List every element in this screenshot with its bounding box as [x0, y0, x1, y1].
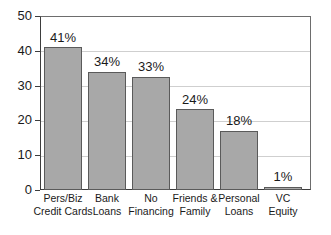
bar-value-label: 18% — [208, 113, 270, 128]
bar-group-vc-equity: 1% — [264, 16, 302, 190]
x-axis-labels: Pers/Biz Credit Cards Bank Loans No Fina… — [40, 192, 311, 235]
y-tick-40: 40 — [0, 51, 40, 52]
x-label-line1: Bank — [95, 192, 119, 204]
y-tick-50: 50 — [0, 16, 40, 17]
bar-value-label: 1% — [252, 169, 314, 184]
bar-value-label: 41% — [32, 30, 94, 45]
y-tick-10: 10 — [0, 155, 40, 156]
y-tick-label-50: 50 — [18, 8, 32, 23]
x-label-line1: VC — [276, 192, 291, 204]
y-tick-label-10: 10 — [18, 147, 32, 162]
x-label-vc-equity: VC Equity — [257, 192, 309, 217]
bar-group-personal-loans: 18% — [220, 16, 258, 190]
bar-group-friends-family: 24% — [176, 16, 214, 190]
y-tick-0: 0 — [0, 190, 40, 191]
y-tick-label-20: 20 — [18, 112, 32, 127]
x-label-line1: No — [144, 192, 157, 204]
x-label-line1: Pers/Biz — [43, 192, 82, 204]
y-tick-30: 30 — [0, 86, 40, 87]
bar-chart: 50 40 30 20 10 0 41% — [0, 0, 331, 235]
x-label-line1: Personal — [218, 192, 259, 204]
bar-value-label: 24% — [164, 92, 226, 107]
bar-group-pers-biz-credit-cards: 41% — [44, 16, 82, 190]
y-tick-mark — [35, 190, 40, 191]
bar-value-label: 33% — [120, 59, 182, 74]
bars-layer: 41% 34% 33% 24% 18% 1% — [40, 16, 311, 190]
y-tick-20: 20 — [0, 120, 40, 121]
bar-group-bank-loans: 34% — [88, 16, 126, 190]
y-tick-label-30: 30 — [18, 78, 32, 93]
x-label-line2: Equity — [257, 205, 309, 218]
table-row[interactable] — [88, 72, 126, 190]
y-tick-label-40: 40 — [18, 43, 32, 58]
table-row[interactable] — [264, 187, 302, 190]
y-tick-label-0: 0 — [25, 182, 32, 197]
